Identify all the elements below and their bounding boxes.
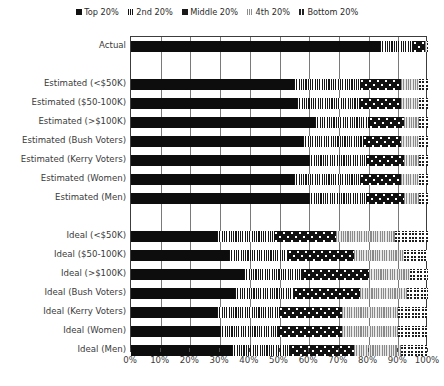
bar-segment-2[interactable]: [360, 79, 402, 90]
stacked-bar[interactable]: [131, 136, 428, 147]
bar-segment-0[interactable]: [131, 174, 294, 185]
bar-segment-1[interactable]: [294, 174, 359, 185]
bar-segment-4[interactable]: [427, 41, 428, 52]
bar-segment-1[interactable]: [217, 231, 273, 242]
bar-segment-1[interactable]: [309, 155, 365, 166]
bar-segment-2[interactable]: [413, 41, 425, 52]
bar-segment-1[interactable]: [217, 307, 279, 318]
bar-segment-3[interactable]: [404, 193, 419, 204]
stacked-bar[interactable]: [131, 250, 428, 261]
bar-segment-2[interactable]: [294, 288, 359, 299]
bar-segment-2[interactable]: [279, 326, 341, 337]
stacked-bar[interactable]: [131, 326, 428, 337]
bar-segment-3[interactable]: [401, 98, 419, 109]
bar-segment-2[interactable]: [274, 231, 336, 242]
bar-segment-1[interactable]: [235, 288, 294, 299]
bar-segment-1[interactable]: [244, 269, 303, 280]
bar-segment-3[interactable]: [401, 79, 419, 90]
bar-segment-3[interactable]: [354, 250, 404, 261]
bar-segment-2[interactable]: [288, 250, 353, 261]
bar-row: [131, 136, 426, 147]
bar-segment-4[interactable]: [419, 117, 428, 128]
bar-segment-3[interactable]: [342, 307, 398, 318]
bar-segment-4[interactable]: [419, 136, 428, 147]
legend-item-3[interactable]: 4th 20%: [247, 8, 290, 16]
bar-row: [131, 117, 426, 128]
bar-segment-3[interactable]: [369, 269, 411, 280]
x-axis: 0%10%20%30%40%50%60%70%80%90%100%: [0, 348, 434, 372]
legend-item-1[interactable]: 2nd 20%: [128, 8, 173, 16]
bar-segment-1[interactable]: [220, 326, 279, 337]
stacked-bar[interactable]: [131, 193, 428, 204]
bar-segment-2[interactable]: [363, 136, 402, 147]
bar-segment-0[interactable]: [131, 250, 229, 261]
bar-segment-4[interactable]: [410, 269, 428, 280]
legend-item-2[interactable]: Middle 20%: [182, 8, 238, 16]
bar-segment-2[interactable]: [279, 307, 341, 318]
bar-segment-0[interactable]: [131, 136, 303, 147]
stacked-bar[interactable]: [131, 307, 428, 318]
bar-segment-0[interactable]: [131, 307, 217, 318]
bar-segment-0[interactable]: [131, 288, 235, 299]
bar-segment-4[interactable]: [419, 174, 428, 185]
bar-segment-4[interactable]: [419, 193, 428, 204]
bar-segment-3[interactable]: [342, 326, 398, 337]
y-axis-label: Ideal (<$50K): [0, 230, 126, 241]
bar-segment-4[interactable]: [419, 98, 428, 109]
bar-segment-1[interactable]: [315, 117, 368, 128]
stacked-bar[interactable]: [131, 174, 428, 185]
bar-segment-4[interactable]: [398, 307, 428, 318]
bar-segment-4[interactable]: [398, 326, 428, 337]
bar-segment-0[interactable]: [131, 269, 244, 280]
legend-item-4[interactable]: Bottom 20%: [299, 8, 358, 16]
y-axis-label: Estimated (<$50K): [0, 78, 126, 89]
bar-segment-0[interactable]: [131, 117, 315, 128]
stacked-bar[interactable]: [131, 231, 428, 242]
chart-legend: Top 20%2nd 20%Middle 20%4th 20%Bottom 20…: [0, 8, 434, 16]
bar-segment-2[interactable]: [366, 193, 405, 204]
stacked-bar[interactable]: [131, 269, 428, 280]
stacked-bar[interactable]: [131, 98, 428, 109]
bar-segment-2[interactable]: [303, 269, 368, 280]
bar-segment-3[interactable]: [336, 231, 395, 242]
bar-segment-4[interactable]: [419, 155, 428, 166]
stacked-bar[interactable]: [131, 155, 428, 166]
bar-segment-4[interactable]: [404, 250, 428, 261]
y-axis-label: Estimated (Kerry Voters): [0, 154, 126, 165]
bar-segment-0[interactable]: [131, 98, 297, 109]
stacked-bar[interactable]: [131, 41, 428, 52]
bar-segment-3[interactable]: [404, 117, 419, 128]
x-axis-tick: [368, 348, 369, 352]
bar-segment-1[interactable]: [294, 79, 359, 90]
bar-segment-2[interactable]: [369, 117, 405, 128]
bar-rows: [131, 37, 426, 347]
bar-segment-0[interactable]: [131, 41, 380, 52]
x-axis-tick: [308, 348, 309, 352]
legend-swatch-icon: [182, 9, 188, 15]
bar-segment-4[interactable]: [395, 231, 428, 242]
bar-segment-3[interactable]: [401, 136, 419, 147]
stacked-bar[interactable]: [131, 79, 428, 90]
bar-segment-1[interactable]: [380, 41, 413, 52]
bar-row: [131, 174, 426, 185]
bar-segment-3[interactable]: [404, 155, 419, 166]
bar-segment-1[interactable]: [229, 250, 288, 261]
legend-item-0[interactable]: Top 20%: [76, 8, 119, 16]
bar-segment-2[interactable]: [360, 98, 402, 109]
bar-segment-0[interactable]: [131, 155, 309, 166]
stacked-bar[interactable]: [131, 288, 428, 299]
bar-segment-3[interactable]: [360, 288, 408, 299]
bar-segment-0[interactable]: [131, 231, 217, 242]
bar-segment-1[interactable]: [297, 98, 359, 109]
bar-segment-4[interactable]: [407, 288, 428, 299]
bar-segment-0[interactable]: [131, 193, 309, 204]
bar-segment-0[interactable]: [131, 79, 294, 90]
stacked-bar[interactable]: [131, 117, 428, 128]
bar-segment-1[interactable]: [309, 193, 365, 204]
bar-segment-4[interactable]: [419, 79, 428, 90]
bar-segment-0[interactable]: [131, 326, 220, 337]
bar-segment-1[interactable]: [303, 136, 362, 147]
bar-segment-2[interactable]: [366, 155, 405, 166]
bar-segment-2[interactable]: [360, 174, 402, 185]
bar-segment-3[interactable]: [401, 174, 419, 185]
